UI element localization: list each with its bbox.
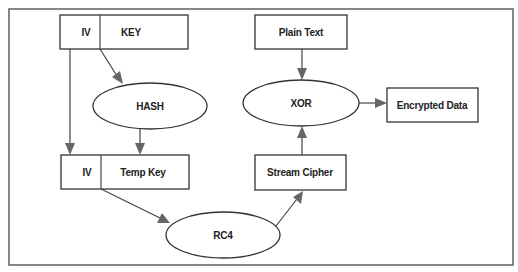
node-rc4: RC4 [166, 212, 280, 258]
edge-hash-to-tempkey [135, 129, 145, 155]
edge-rc4-to-streamcipher [276, 191, 303, 226]
label-iv-top: IV [81, 27, 91, 38]
arrowhead-icon [65, 143, 75, 155]
label-rc4: RC4 [213, 230, 233, 241]
arrowhead-icon [297, 126, 307, 138]
node-xor: XOR [243, 80, 359, 126]
label-encrypted-data: Encrypted Data [397, 100, 468, 111]
node-stream-cipher: Stream Cipher [255, 155, 346, 190]
label-stream-cipher: Stream Cipher [267, 167, 333, 178]
label-xor: XOR [290, 98, 312, 109]
arrowhead-icon [112, 71, 123, 84]
label-hash: HASH [136, 101, 164, 112]
edge-plaintext-to-xor [297, 49, 307, 80]
node-iv-key: IV KEY [60, 15, 188, 49]
arrowhead-icon [297, 68, 307, 80]
edge-iv-to-iv [65, 49, 75, 155]
node-iv-tempkey: IV Temp Key [61, 155, 189, 189]
edge-key-to-hash [100, 49, 123, 84]
label-temp-key: Temp Key [120, 167, 166, 178]
edges [65, 49, 387, 226]
edge-xor-to-encrypted [359, 98, 387, 108]
arrowhead-icon [375, 98, 387, 108]
node-encrypted-data: Encrypted Data [387, 88, 478, 122]
edge-streamcipher-to-xor [297, 126, 307, 155]
label-iv-bottom: IV [82, 167, 92, 178]
edge-tempkey-to-rc4 [101, 189, 170, 223]
node-plain-text: Plain Text [255, 15, 347, 49]
label-plain-text: Plain Text [279, 27, 324, 38]
wep-encryption-diagram: IV KEY HASH IV Temp Key RC4 Plain Text X… [0, 0, 518, 272]
arrowhead-icon [135, 143, 145, 155]
label-key: KEY [121, 27, 141, 38]
node-hash: HASH [93, 83, 207, 129]
